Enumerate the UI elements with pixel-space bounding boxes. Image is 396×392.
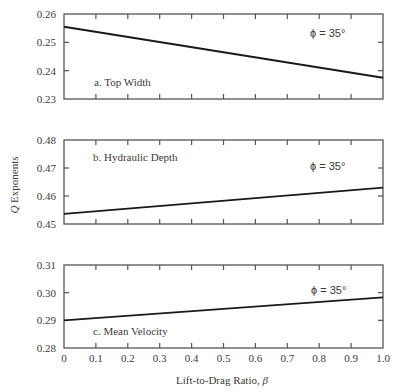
y-tick-label: 0.47: [37, 162, 57, 174]
panel-b: 0.450.460.470.48b. Hydraulic Depthϕ = 35…: [37, 134, 383, 230]
phi-annotation: ϕ = 35°: [310, 27, 345, 39]
data-line: [64, 188, 383, 214]
x-axis-title-symbol: β: [261, 374, 268, 386]
y-tick-label: 0.26: [37, 8, 57, 20]
y-tick-label: 0.31: [37, 259, 56, 271]
y-tick-label: 0.29: [37, 314, 57, 326]
panel-a: 0.230.240.250.26a. Top Widthϕ = 35°: [37, 8, 383, 105]
x-tick-label: 0.6: [249, 352, 263, 364]
panel-title: c. Mean Velocity: [93, 325, 168, 337]
x-tick-label: 0.7: [280, 352, 294, 364]
y-axis-title: Q Exponents: [8, 156, 20, 213]
panel-title: a. Top Width: [94, 76, 151, 88]
panel-c: 0.280.290.300.31c. Mean Velocityϕ = 35°: [37, 259, 383, 354]
y-axis-title-text: Exponents: [8, 156, 20, 205]
phi-annotation: ϕ = 35°: [310, 160, 345, 172]
x-axis-title-text: Lift-to-Drag Ratio,: [176, 374, 262, 386]
panels: 0.230.240.250.26a. Top Widthϕ = 35°0.450…: [37, 8, 391, 364]
chart-svg: 0.230.240.250.26a. Top Widthϕ = 35°0.450…: [0, 0, 396, 392]
x-tick-label: 0.3: [153, 352, 167, 364]
x-tick-label: 0: [61, 352, 67, 364]
y-tick-label: 0.24: [37, 65, 57, 77]
x-tick-label: 1.0: [376, 352, 390, 364]
y-tick-label: 0.25: [37, 36, 57, 48]
y-tick-label: 0.48: [37, 134, 57, 146]
panel-title: b. Hydraulic Depth: [93, 151, 178, 163]
x-axis-title: Lift-to-Drag Ratio, β: [176, 374, 268, 386]
y-tick-label: 0.46: [37, 190, 57, 202]
data-line: [64, 297, 383, 320]
x-tick-label: 0.2: [121, 352, 135, 364]
y-tick-label: 0.28: [37, 342, 57, 354]
x-tick-label: 0.5: [217, 352, 231, 364]
y-tick-label: 0.30: [37, 287, 57, 299]
phi-annotation: ϕ = 35°: [311, 284, 346, 296]
figure: 0.230.240.250.26a. Top Widthϕ = 35°0.450…: [0, 0, 396, 392]
x-tick-label: 0.8: [312, 352, 326, 364]
y-tick-label: 0.23: [37, 93, 57, 105]
x-tick-label: 0.1: [89, 352, 103, 364]
x-tick-label: 0.9: [344, 352, 358, 364]
x-tick-label: 0.4: [185, 352, 199, 364]
y-tick-label: 0.45: [37, 218, 57, 230]
y-axis-title-symbol: Q: [8, 206, 20, 214]
